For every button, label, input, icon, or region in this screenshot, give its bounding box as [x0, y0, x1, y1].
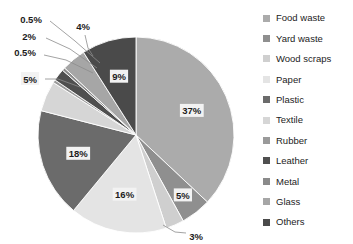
label-text: 18% — [69, 148, 89, 159]
slice-value-label: 9% — [110, 70, 128, 83]
legend-swatch-icon — [263, 157, 270, 164]
legend-item[interactable]: Glass — [263, 192, 353, 212]
legend-item[interactable]: Leather — [263, 151, 353, 171]
legend-item[interactable]: Textile — [263, 110, 353, 130]
slice-value-label: 18% — [66, 147, 90, 160]
legend-swatch-icon — [263, 76, 270, 83]
legend-swatch-icon — [263, 35, 270, 42]
slice-value-label: 37% — [180, 104, 204, 117]
legend-item-label: Metal — [276, 177, 299, 187]
label-text: 2% — [22, 31, 36, 42]
legend-swatch-icon — [263, 137, 270, 144]
legend-swatch-icon — [263, 55, 270, 62]
pie-chart-figure: 37%5%16%18%9%3%5%0.5%2%0.5%4% Food waste… — [0, 0, 353, 244]
slice-value-label: 0.5% — [20, 14, 42, 25]
legend-item-label: Others — [276, 217, 305, 227]
label-text: 0.5% — [20, 14, 42, 25]
legend-item[interactable]: Rubber — [263, 130, 353, 150]
legend-swatch-icon — [263, 219, 270, 226]
legend-item-label: Rubber — [276, 136, 307, 146]
legend-item[interactable]: Others — [263, 212, 353, 232]
legend-swatch-icon — [263, 117, 270, 124]
legend-swatch-icon — [263, 15, 270, 22]
label-text: 5% — [23, 74, 37, 85]
label-text: 37% — [182, 105, 202, 116]
slice-value-label: 5% — [174, 188, 192, 201]
legend-item-label: Textile — [276, 115, 303, 125]
legend-item-label: Plastic — [276, 95, 304, 105]
callout-leader-line — [50, 21, 100, 63]
legend-item[interactable]: Paper — [263, 69, 353, 89]
chart-legend: Food wasteYard wasteWood scrapsPaperPlas… — [263, 8, 353, 232]
label-text: 3% — [189, 231, 203, 242]
slice-value-label: 2% — [22, 31, 36, 42]
label-text: 5% — [176, 190, 190, 201]
slice-value-label: 16% — [113, 188, 137, 201]
slice-value-label: 4% — [76, 21, 90, 32]
slice-value-label: 3% — [189, 231, 203, 242]
label-text: 4% — [76, 21, 90, 32]
label-text: 0.5% — [14, 47, 36, 58]
legend-item-label: Glass — [276, 197, 300, 207]
legend-swatch-icon — [263, 178, 270, 185]
label-text: 16% — [115, 189, 135, 200]
legend-item[interactable]: Metal — [263, 171, 353, 191]
legend-item-label: Leather — [276, 156, 308, 166]
legend-item-label: Wood scraps — [276, 54, 331, 64]
legend-item-label: Yard waste — [276, 34, 323, 44]
legend-swatch-icon — [263, 198, 270, 205]
slice-value-label: 5% — [21, 72, 39, 85]
pie-slices-group — [38, 37, 234, 233]
slice-value-label: 0.5% — [14, 47, 36, 58]
legend-item[interactable]: Food waste — [263, 8, 353, 28]
legend-swatch-icon — [263, 96, 270, 103]
legend-item-label: Paper — [276, 75, 301, 85]
legend-item[interactable]: Yard waste — [263, 28, 353, 48]
legend-item-label: Food waste — [276, 13, 325, 23]
label-text: 9% — [112, 71, 126, 82]
legend-item[interactable]: Wood scraps — [263, 49, 353, 69]
legend-item[interactable]: Plastic — [263, 90, 353, 110]
